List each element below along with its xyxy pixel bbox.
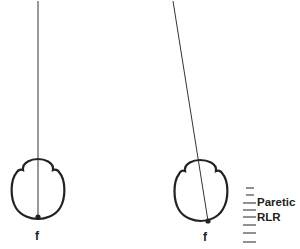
- right-line-of-sight: [173, 1, 208, 221]
- left-fovea-dot: [35, 214, 40, 219]
- right-fixation-label: f: [203, 231, 207, 243]
- right-fovea-dot: [205, 218, 210, 223]
- right-head-diagram: [173, 1, 227, 224]
- diagram-canvas: [0, 0, 300, 249]
- rlr-label: RLR: [257, 212, 281, 224]
- left-head-diagram: [12, 1, 65, 220]
- paretic-label: Paretic: [257, 197, 295, 209]
- scale-ticks: [243, 188, 256, 242]
- right-head-outline: [175, 160, 228, 221]
- left-fixation-label: f: [35, 230, 39, 242]
